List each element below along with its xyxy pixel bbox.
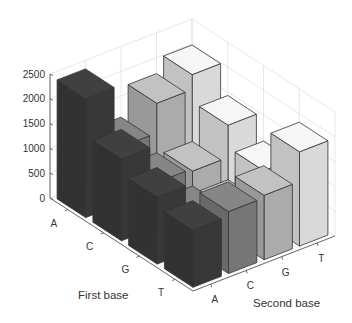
second-base-tick-label: G (282, 267, 290, 278)
first-base-axis-title: First base (78, 289, 129, 301)
first-base-tick-label: A (51, 218, 58, 229)
second-base-tick-label: C (247, 280, 254, 291)
z-tick-label: 1000 (23, 143, 46, 154)
first-base-tick-label: C (86, 241, 93, 252)
z-tick-label: 1500 (23, 118, 46, 129)
bar-T-A (164, 201, 221, 288)
axis-labels: First base Second base (78, 289, 320, 309)
z-tick-label: 0 (39, 193, 45, 204)
3d-bar-chart: 05001000150020002500ACGTACGT First base … (0, 0, 352, 323)
first-base-tick-label: G (121, 264, 129, 275)
z-tick-label: 500 (28, 168, 45, 179)
z-tick-label: 2000 (23, 93, 46, 104)
second-base-tick-label: T (318, 253, 324, 264)
second-base-tick-label: A (211, 294, 218, 305)
second-base-axis-title: Second base (253, 297, 320, 309)
z-tick-label: 2500 (23, 69, 46, 80)
first-base-tick-label: T (158, 287, 164, 298)
